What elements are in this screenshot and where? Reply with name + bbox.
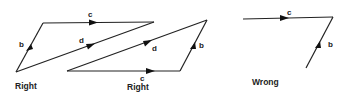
arrow-d-icon xyxy=(143,40,152,47)
label-b: b xyxy=(199,41,204,50)
arrow-b-icon xyxy=(190,42,196,49)
caption-wrong: Wrong xyxy=(252,77,279,87)
vector-diagram: b c d Right b c d Right b c Wrong xyxy=(0,0,347,96)
label-d: d xyxy=(79,36,84,45)
vector-c-line xyxy=(43,22,154,23)
arrow-b-icon xyxy=(315,41,321,48)
caption-right-1: Right xyxy=(15,81,37,91)
arrow-c-icon xyxy=(146,68,155,74)
figure-1-right: b c d Right xyxy=(15,10,154,91)
figure-3-wrong: b c Wrong xyxy=(243,8,333,87)
figure-2-right: b c d Right xyxy=(67,20,207,92)
caption-right-2: Right xyxy=(127,82,149,92)
label-c: c xyxy=(287,8,292,17)
label-d: d xyxy=(152,44,157,53)
arrow-c-icon xyxy=(89,20,98,26)
label-b: b xyxy=(328,40,333,49)
arrow-d-icon xyxy=(86,44,95,50)
label-c: c xyxy=(88,10,93,19)
label-b: b xyxy=(19,40,24,49)
arrow-b-icon xyxy=(26,44,33,51)
